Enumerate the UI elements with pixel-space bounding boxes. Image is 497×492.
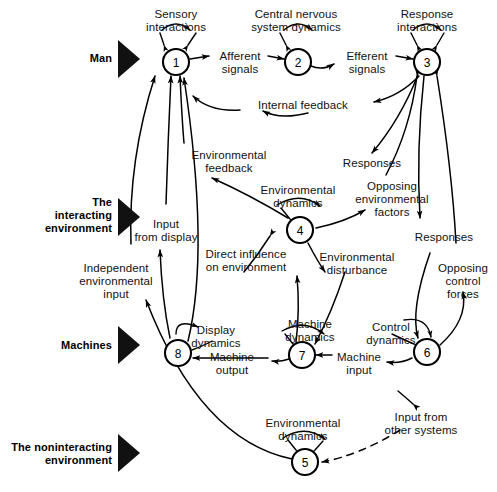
band-label-man: Man (50, 52, 112, 65)
label-input-from-display: Input from display (124, 218, 208, 244)
node-7-number: 7 (299, 349, 306, 363)
node-1-circle[interactable] (163, 49, 189, 75)
self-loop-tail-n2 (280, 33, 286, 45)
edge-n3-n4-responses (372, 75, 418, 153)
label-sensory-interactions: Sensory interactions (126, 8, 226, 34)
node-4-number: 4 (297, 224, 304, 238)
label-machine-dynamics: Machine dynamics (278, 318, 342, 344)
band-marker-noninteracting (118, 434, 140, 472)
node-6-number: 6 (424, 346, 431, 360)
label-central-nervous-system-dynamics: Central nervous system dynamics (236, 8, 356, 34)
band-label-machines: Machines (20, 339, 112, 352)
label-environmental-disturbance: Environmental disturbance (311, 251, 403, 277)
label-responses-upper: Responses (335, 157, 409, 170)
node-3-circle[interactable] (414, 49, 440, 75)
edge-n1-n2-b (268, 56, 284, 59)
label-opposing-control-forces: Opposing control forces (432, 262, 494, 301)
edge-env-feedback-n1 (180, 76, 184, 143)
label-machine-input: Machine input (329, 351, 389, 377)
edge-other-systems-arrowhead (398, 391, 413, 404)
label-response-interactions: Response interactions (381, 8, 473, 34)
edge-opposing-control-n3 (437, 76, 456, 243)
label-independent-environmental-input: Independent environmental input (70, 262, 162, 301)
edge-input-display-n1 (166, 76, 171, 204)
band-markers (118, 40, 140, 472)
label-display-dynamics: Display dynamics (184, 324, 248, 350)
edge-n2-n3-b (396, 56, 413, 59)
band-label-interacting-environment: The interacting environment (20, 196, 112, 236)
edge-n1-n2-a (190, 56, 209, 59)
label-opposing-environmental-factors: Opposing environmental factors (346, 180, 438, 219)
edge-n7-machine-output-start (272, 359, 289, 361)
label-efferent-signals: Efferent signals (338, 50, 396, 76)
self-loop-tail-n3 (411, 33, 417, 45)
label-machine-output: Machine output (200, 351, 264, 377)
self-loop-tail-n3b (437, 33, 444, 45)
label-control-dynamics: Control dynamics (360, 321, 422, 347)
node-3-number: 3 (424, 56, 431, 70)
node-1-number: 1 (173, 56, 180, 70)
self-loop-tail-n1 (160, 33, 164, 45)
node-4-circle[interactable] (287, 217, 313, 243)
label-responses-lower: Responses (407, 231, 481, 244)
label-afferent-signals: Afferent signals (211, 50, 269, 76)
edge-n3-internal-feedback-in (374, 76, 419, 102)
self-loop-tail-n1b (188, 33, 196, 45)
diagram-canvas: 1 2 3 4 5 6 7 8 Man The interacting envi… (0, 0, 497, 492)
label-environmental-dynamics-node4: Environmental dynamics (252, 184, 344, 210)
label-direct-influence-on-environment: Direct influence on environment (194, 248, 298, 274)
node-5-circle[interactable] (292, 449, 318, 475)
edge-n6-machine-input-a (387, 358, 412, 363)
label-environmental-feedback: Environmental feedback (183, 149, 275, 175)
node-2-number: 2 (295, 56, 302, 70)
edge-n8-n1-strand (184, 78, 198, 341)
edge-n2-n3-a (311, 64, 334, 68)
band-marker-machines (118, 326, 140, 364)
node-8-number: 8 (175, 347, 182, 361)
edge-internal-feedback-n1 (193, 96, 240, 110)
label-input-from-other-systems: Input from other systems (375, 411, 467, 437)
node-5-number: 5 (302, 456, 309, 470)
band-label-noninteracting-environment: The noninteracting environment (4, 441, 112, 467)
node-7-circle[interactable] (289, 342, 315, 368)
label-environmental-dynamics-node5: Environmental dynamics (257, 417, 349, 443)
band-marker-man (118, 40, 140, 78)
node-2-circle[interactable] (285, 49, 311, 75)
label-internal-feedback: Internal feedback (246, 99, 360, 112)
